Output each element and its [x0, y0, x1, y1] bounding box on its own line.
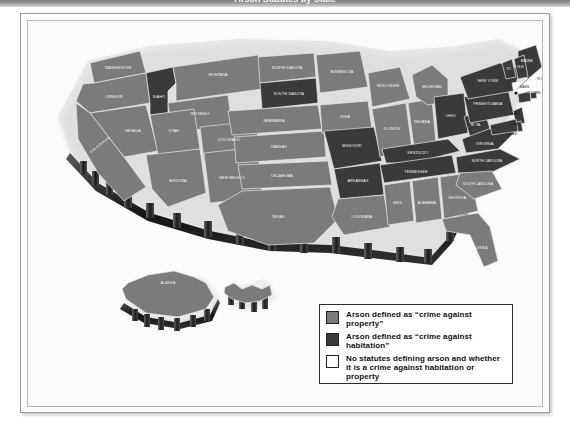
label-NH: N.H. — [518, 65, 525, 69]
label-VT: VT. — [506, 67, 511, 71]
label-MN: MINNESOTA — [331, 70, 354, 74]
label-NY: NEW YORK — [478, 79, 499, 83]
label-AR: ARKANSAS — [347, 179, 368, 183]
legend-label-property: Arson defined as “crime against property… — [346, 310, 507, 329]
label-PA: PENNSYLVANIA — [473, 102, 503, 106]
label-WV: W. VA. — [471, 123, 481, 127]
legend-item-crime-against-property: Arson defined as “crime against property… — [326, 310, 507, 329]
label-MT: MONTANA — [209, 73, 228, 77]
label-TN: TENNESSEE — [404, 170, 428, 174]
label-GA: GEORGIA — [448, 196, 467, 200]
label-RI: R.I. — [537, 77, 542, 81]
label-VA: VIRGINIA — [476, 142, 494, 146]
label-HI: HAWAII — [241, 281, 255, 285]
label-AL: ALABAMA — [418, 201, 437, 205]
label-MA: MASS. — [520, 85, 531, 89]
label-IN: INDIANA — [414, 120, 430, 124]
label-ID: IDAHO — [153, 95, 165, 99]
label-NC: NORTH CAROLINA — [472, 159, 503, 163]
legend-swatch-property — [326, 311, 339, 324]
legend-swatch-habitation — [326, 333, 339, 346]
map-legend: Arson defined as “crime against property… — [319, 304, 513, 384]
figure-frame: WASHINGTON OREGON IDAHO MONTANA NORTH DA… — [20, 13, 550, 413]
label-NE: NEBRASKA — [263, 119, 284, 123]
state-CT[interactable] — [518, 92, 531, 103]
label-WA: WASHINGTON — [105, 66, 132, 70]
legend-swatch-none — [326, 355, 339, 368]
label-IA: IOWA — [340, 115, 351, 119]
page-header-title: Arson Statutes by State — [0, 0, 570, 4]
label-OK: OKLAHOMA — [271, 174, 293, 178]
legend-item-crime-against-habitation: Arson defined as “crime against habitati… — [326, 332, 507, 351]
label-OR: OREGON — [105, 95, 122, 99]
legend-label-habitation: Arson defined as “crime against habitati… — [346, 332, 507, 351]
label-AK: ALASKA — [160, 281, 176, 285]
label-SC: SOUTH CAROLINA — [463, 182, 494, 186]
label-MI: MICHIGAN — [422, 85, 442, 89]
label-MD: MD. — [512, 132, 518, 136]
label-SD: SOUTH DAKOTA — [274, 92, 305, 96]
label-FL: FLORIDA — [473, 246, 489, 250]
label-DE: DEL. — [513, 122, 521, 126]
label-KS: KANSAS — [271, 145, 287, 149]
label-ND: NORTH DAKOTA — [272, 66, 303, 70]
label-CO: COLORADO — [218, 138, 240, 142]
label-NM: NEW MEXICO — [219, 176, 244, 180]
legend-item-no-statutes: No statutes defining arson and whether i… — [326, 354, 507, 382]
label-MO: MISSOURI — [342, 144, 361, 148]
map-plate: WASHINGTON OREGON IDAHO MONTANA NORTH DA… — [27, 20, 543, 407]
label-KY: KENTUCKY — [407, 151, 428, 155]
legend-label-none: No statutes defining arson and whether i… — [346, 354, 507, 382]
label-ME: MAINE — [521, 59, 534, 63]
label-NV: NEVADA — [125, 129, 141, 133]
label-OH: OHIO — [446, 114, 456, 118]
label-MS: MISS. — [393, 201, 402, 205]
page-header-strip: Arson Statutes by State — [0, 0, 570, 7]
label-LA: LOUISIANA — [352, 215, 373, 219]
state-MO[interactable] — [324, 127, 382, 169]
label-IL: ILLINOIS — [384, 127, 401, 131]
label-CT: CONN. — [530, 91, 541, 95]
label-TX: TEXAS — [272, 215, 285, 219]
label-UT: UTAH — [169, 129, 179, 133]
label-WI: WISCONSIN — [377, 84, 400, 88]
label-AZ: ARIZONA — [169, 179, 187, 183]
label-WY: WYOMING — [190, 112, 209, 116]
